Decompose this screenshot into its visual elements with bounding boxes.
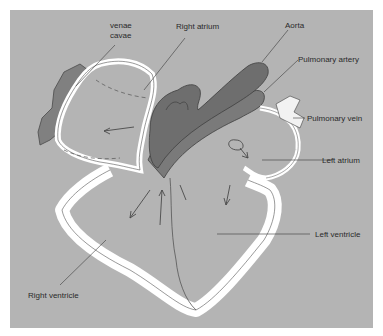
label-pulmonary-artery: Pulmonary artery bbox=[298, 55, 359, 64]
label-aorta: Aorta bbox=[285, 21, 305, 30]
pulmonary-vein-vessel bbox=[276, 96, 304, 128]
label-venae-cavae-1: venae bbox=[110, 21, 132, 30]
heart-diagram: venae cavae Right atrium Aorta Pulmonary… bbox=[0, 0, 383, 336]
label-left-atrium: Left atrium bbox=[322, 156, 360, 165]
label-right-ventricle: Right ventricle bbox=[28, 291, 79, 300]
label-left-ventricle: Left ventricle bbox=[315, 230, 361, 239]
ventricle-wall bbox=[62, 170, 275, 310]
aorta-vessel bbox=[149, 63, 268, 168]
label-venae-cavae-2: cavae bbox=[110, 31, 132, 40]
label-pulmonary-vein: Pulmonary vein bbox=[307, 114, 362, 123]
label-right-atrium: Right atrium bbox=[176, 22, 219, 31]
